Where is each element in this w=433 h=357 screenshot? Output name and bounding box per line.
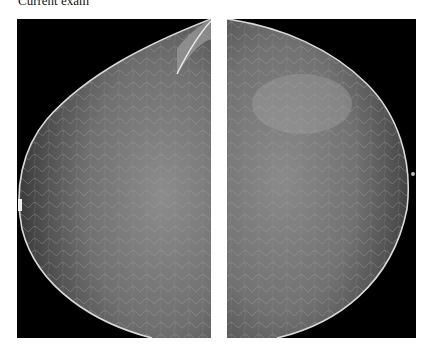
mammogram-left-view bbox=[17, 19, 211, 338]
breast-image-left bbox=[17, 19, 211, 338]
exam-label: Current exam bbox=[18, 0, 89, 9]
mammogram-right-view bbox=[227, 19, 416, 338]
breast-image-right bbox=[227, 19, 416, 338]
